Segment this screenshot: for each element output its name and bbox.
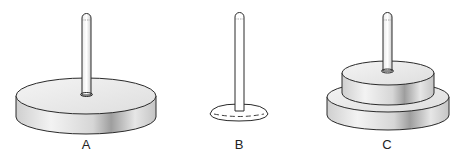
peg-c-label: C <box>382 138 391 151</box>
peg-a <box>16 14 156 135</box>
tower-diagram <box>0 0 467 157</box>
rod <box>235 13 244 112</box>
rod <box>81 14 93 97</box>
peg-c <box>327 13 449 131</box>
peg-b-label: B <box>235 138 244 151</box>
rod <box>382 13 394 74</box>
peg-b <box>210 13 268 122</box>
peg-a-label: A <box>82 138 91 151</box>
